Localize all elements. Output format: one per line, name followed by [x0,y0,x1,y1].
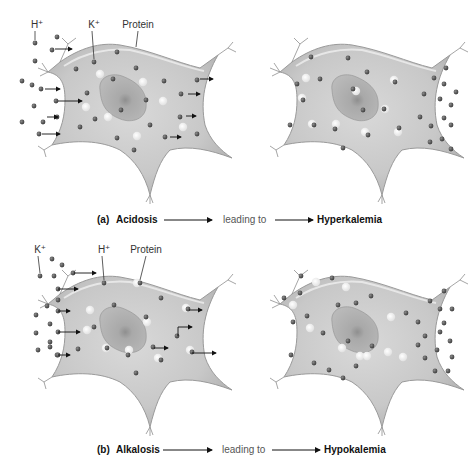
ion-particle-extracellular [446,369,451,374]
ion-particle-intracellular [134,66,139,71]
ion-particle-intracellular [341,376,346,381]
ion-particle-extracellular [48,322,53,327]
ion-particle-intracellular [144,315,149,320]
caption-leading-to: leading to [223,214,267,225]
ion-particle-extracellular [54,99,59,104]
ion-particle-intracellular [393,80,398,85]
ion-particle-extracellular [418,115,423,120]
ion-particle-extracellular [428,140,433,145]
panel-a-left-cell [20,35,236,204]
ion-particle-intracellular [336,303,341,308]
ion-particle-intracellular [179,92,184,97]
ion-particle-intracellular [404,311,409,316]
ion-particle-extracellular [442,82,447,87]
ion-particle-intracellular [282,296,287,301]
ion-particle-extracellular [55,35,60,40]
ion-particle-intracellular [85,91,90,96]
ion-particle-intracellular [186,307,191,312]
ion-particle-extracellular [442,321,447,326]
ion-particle-intracellular [354,301,359,306]
ion-particle-extracellular [428,299,433,304]
ion-particle-extracellular [435,348,440,353]
label-protein: Protein [130,244,162,255]
ion-particle-intracellular [382,107,387,112]
ion-particle-intracellular [312,123,317,128]
protein-particle [342,283,350,291]
caption-condition-alkalosis: Alkalosis [116,444,160,455]
ion-particle-extracellular [416,343,421,348]
ion-particle-intracellular [354,364,359,369]
protein-particle [104,113,112,121]
ion-particle-intracellular [397,126,402,131]
protein-particle [139,78,147,86]
label-h-ion: H+ [31,18,43,30]
ion-particle-extracellular [422,92,427,97]
ion-particle-extracellular [449,103,454,108]
ion-particle-extracellular [48,345,53,350]
ion-particle-intracellular [327,368,332,373]
ion-particle-intracellular [318,77,323,82]
label-h-ion: H+ [98,243,110,255]
ion-particle-extracellular [444,66,449,71]
ion-particle-intracellular [365,70,370,75]
panel-b-right-cell [270,270,468,436]
ion-particle-extracellular [39,87,44,92]
ion-particle-intracellular [299,274,304,279]
ion-particle-extracellular [56,298,61,303]
protein-particle [302,74,310,82]
ion-particle-intracellular [351,87,356,92]
ion-particle-extracellular [433,369,438,374]
leader-line [140,256,146,280]
ion-particle-extracellular [52,274,57,279]
ion-particle-intracellular [126,353,131,358]
caption-letter-b: (b) [97,444,110,455]
ion-particle-intracellular [321,331,326,336]
ion-particle-extracellular [438,97,443,102]
ion-particle-extracellular [48,340,53,345]
ion-particle-intracellular [119,108,124,113]
protein-particle [387,313,395,321]
ion-particle-extracellular [34,331,39,336]
ion-particle-extracellular [20,79,25,84]
ion-particle-extracellular [50,257,55,262]
ion-particle-intracellular [112,303,117,308]
protein-particle [312,278,320,286]
protein-particle [96,70,104,78]
ion-particle-intracellular [361,108,366,113]
ion-particle-extracellular [438,330,443,335]
ion-particle-intracellular [195,78,200,83]
ion-particle-intracellular [138,281,143,286]
ion-particle-extracellular [33,59,38,64]
ion-particle-extracellular [429,124,434,129]
ion-particle-intracellular [111,77,116,82]
label-k-ion: K+ [88,18,100,30]
ion-particle-intracellular [330,276,335,281]
ion-particle-intracellular [74,67,79,72]
ion-particle-extracellular [438,307,443,312]
ion-particle-extracellular [38,274,43,279]
ion-particle-extracellular [432,76,437,81]
ion-particle-extracellular [440,137,445,142]
ion-particle-intracellular [148,123,153,128]
ion-particle-extracellular [448,339,453,344]
ion-particle-intracellular [305,314,310,319]
panel-a: H+K+Protein (a) Acidosis leading to Hype… [20,18,468,225]
ion-particle-intracellular [346,56,351,61]
ion-particle-extracellular [60,263,65,268]
ion-particle-intracellular [195,132,200,137]
acidosis-alkalosis-potassium-diagram: H+K+Protein (a) Acidosis leading to Hype… [0,0,472,467]
ion-particle-intracellular [132,148,137,153]
ion-particle-intracellular [312,361,317,366]
ion-particle-extracellular [442,289,447,294]
panel-a-caption: (a) Acidosis leading to Hyperkalemia [97,214,382,225]
ion-particle-intracellular [115,50,120,55]
protein-particle [133,132,141,140]
ion-particle-intracellular [144,98,149,103]
ion-particle-intracellular [102,281,107,286]
ion-particle-intracellular [105,346,110,351]
protein-particle [289,301,297,309]
ion-particle-extracellular [50,48,55,53]
ion-particle-extracellular [449,147,454,152]
ion-particle-intracellular [78,125,83,130]
ion-particle-extracellular [36,348,41,353]
